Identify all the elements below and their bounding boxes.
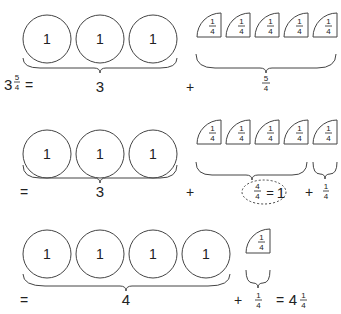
extra-num: 1 (324, 182, 329, 191)
quarter-num: 1 (268, 124, 273, 133)
labels-layer: 1 1 1 3 + 1 1 1 = 3 + + = 1 1 1 1 1 = 4 … (0, 0, 341, 314)
circles-total: 4 (122, 291, 130, 308)
circle-label: 1 (96, 146, 104, 162)
total-den: 4 (264, 84, 269, 93)
circles-total: 3 (96, 183, 104, 200)
extra-den: 4 (324, 192, 329, 201)
quarter-num: 1 (210, 124, 215, 133)
circle-label: 1 (43, 246, 51, 262)
quarter-num: 1 (297, 124, 302, 133)
svg-text:5: 5 (15, 73, 20, 82)
plus-sign: + (305, 184, 313, 200)
group-num: 4 (255, 182, 260, 191)
circle-label: 1 (96, 246, 104, 262)
quarter-num: 1 (239, 124, 244, 133)
total-num: 5 (264, 74, 269, 83)
circle-label: 1 (43, 146, 51, 162)
quarter-den: 4 (210, 134, 215, 143)
circle-label: 1 (96, 31, 104, 47)
result-den: 4 (301, 301, 306, 310)
quarter-num: 1 (210, 17, 215, 26)
circle-label: 1 (149, 31, 157, 47)
circle-label: 1 (43, 31, 51, 47)
plus-sign: + (186, 184, 194, 200)
quarter-num: 1 (326, 124, 331, 133)
circle-label: 1 (202, 246, 210, 262)
quarter-num: 1 (326, 17, 331, 26)
quarter-den: 4 (259, 243, 264, 252)
equals-sign: = (20, 184, 28, 200)
quarter-num: 1 (268, 17, 273, 26)
group-den: 4 (255, 192, 260, 201)
circles-total: 3 (96, 78, 104, 95)
quarter-den: 4 (210, 27, 215, 36)
plus-sign: + (186, 79, 194, 95)
quarter-den: 4 (239, 134, 244, 143)
quarter-den: 4 (326, 134, 331, 143)
quarter-num: 1 (239, 17, 244, 26)
lhs-mixed-number: 3 5 4 = (4, 73, 33, 93)
svg-text:=: = (25, 77, 33, 93)
circle-label: 1 (149, 146, 157, 162)
quarter-den: 4 (268, 27, 273, 36)
equals-sign: = (266, 185, 274, 200)
plus-sign: + (234, 292, 242, 308)
quarter-den: 4 (239, 27, 244, 36)
quarter-den: 4 (297, 134, 302, 143)
quarter-den: 4 (297, 27, 302, 36)
quarter-num: 1 (297, 17, 302, 26)
result-num: 1 (301, 291, 306, 300)
result-whole: 4 (289, 291, 297, 308)
svg-text:4: 4 (15, 83, 20, 92)
quarter-den: 4 (268, 134, 273, 143)
svg-text:3: 3 (4, 76, 12, 93)
equals-sign: = (276, 292, 284, 308)
quarter-den: 4 (326, 27, 331, 36)
extra-den: 4 (256, 301, 261, 310)
group-value: 1 (277, 184, 285, 201)
extra-num: 1 (256, 291, 261, 300)
quarter-num: 1 (259, 233, 264, 242)
equals-sign: = (20, 292, 28, 308)
circle-label: 1 (149, 246, 157, 262)
